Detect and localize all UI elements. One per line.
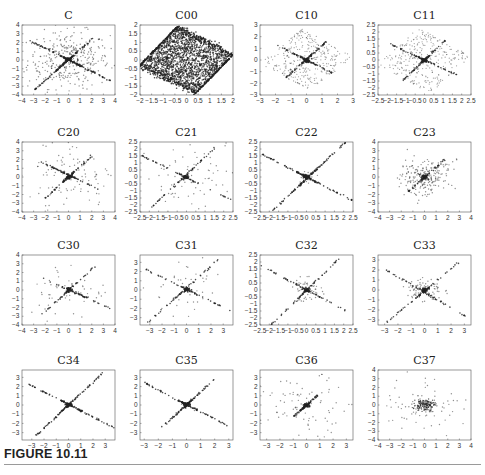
data-points — [262, 142, 353, 211]
data-points — [31, 265, 127, 322]
svg-text:2: 2 — [134, 145, 138, 152]
svg-text:−1: −1 — [408, 327, 416, 334]
svg-text:−3: −3 — [12, 199, 20, 206]
scatter-panel-c35: C35−3−2−10123−3−2−10123 — [130, 354, 233, 449]
svg-text:−1: −1 — [250, 410, 258, 417]
svg-text:3: 3 — [221, 327, 225, 334]
svg-text:2: 2 — [372, 28, 376, 35]
panel-title: C21 — [175, 126, 197, 139]
svg-text:2: 2 — [231, 97, 235, 104]
svg-text:−1: −1 — [12, 65, 20, 72]
svg-text:−2: −2 — [130, 201, 138, 208]
svg-text:2: 2 — [16, 156, 20, 163]
scatter-panel-c11: C11−2.5−2−1.5−1−0.500.511.522.5−2.5−2−1.… — [363, 9, 476, 104]
figure-label: FIGURE 10.11 — [4, 447, 88, 461]
svg-text:1.5: 1.5 — [248, 265, 257, 272]
svg-text:1.5: 1.5 — [217, 97, 226, 104]
svg-text:−4: −4 — [12, 208, 20, 215]
svg-text:−2: −2 — [272, 97, 280, 104]
svg-text:4: 4 — [113, 97, 117, 104]
svg-text:1.5: 1.5 — [210, 214, 219, 221]
svg-text:1: 1 — [318, 442, 322, 449]
svg-text:1.5: 1.5 — [330, 214, 339, 221]
svg-text:−1: −1 — [169, 442, 177, 449]
svg-text:3: 3 — [102, 214, 106, 221]
svg-text:−2.5: −2.5 — [245, 208, 258, 215]
svg-text:1: 1 — [372, 276, 376, 283]
svg-text:3: 3 — [345, 442, 349, 449]
svg-text:−2: −2 — [130, 420, 138, 427]
scatter-panel-c22: C22−2.5−2−1.5−1−0.500.511.522.5−2.5−2−1.… — [245, 126, 358, 221]
svg-text:−1: −1 — [287, 97, 295, 104]
panel-title: C34 — [57, 354, 79, 367]
svg-text:3: 3 — [134, 374, 138, 381]
svg-text:−1: −1 — [53, 214, 61, 221]
svg-text:−3: −3 — [30, 327, 38, 334]
svg-text:1: 1 — [134, 277, 138, 284]
svg-text:−2: −2 — [250, 420, 258, 427]
svg-text:3: 3 — [227, 442, 231, 449]
svg-text:2: 2 — [460, 97, 464, 104]
svg-text:−4: −4 — [368, 208, 376, 215]
svg-text:−1: −1 — [12, 295, 20, 302]
svg-text:1: 1 — [208, 97, 212, 104]
svg-text:−1: −1 — [250, 68, 258, 75]
svg-text:2.5: 2.5 — [366, 21, 375, 28]
svg-text:1: 1 — [372, 42, 376, 49]
svg-text:−1: −1 — [130, 410, 138, 417]
svg-text:−2: −2 — [42, 327, 50, 334]
svg-text:1: 1 — [254, 272, 258, 279]
svg-text:−3: −3 — [141, 442, 149, 449]
svg-text:−4: −4 — [12, 91, 20, 98]
svg-text:−3: −3 — [368, 316, 376, 323]
svg-text:−2: −2 — [368, 84, 376, 91]
svg-text:−2: −2 — [250, 201, 258, 208]
svg-text:−0.5: −0.5 — [171, 214, 184, 221]
svg-text:0: 0 — [423, 214, 427, 221]
svg-text:3: 3 — [16, 30, 20, 37]
svg-text:4: 4 — [113, 327, 117, 334]
svg-text:0: 0 — [134, 286, 138, 293]
svg-text:2: 2 — [372, 266, 376, 273]
panel-title: C31 — [175, 239, 197, 252]
svg-text:−3: −3 — [263, 442, 271, 449]
svg-text:1: 1 — [372, 164, 376, 171]
data-points — [397, 149, 458, 204]
svg-text:2: 2 — [372, 156, 376, 163]
svg-text:2.5: 2.5 — [466, 97, 475, 104]
svg-text:0.5: 0.5 — [311, 327, 320, 334]
svg-text:1: 1 — [197, 327, 201, 334]
svg-text:−3: −3 — [250, 91, 258, 98]
figure-10-11-scatter-grid: C−4−3−2−101234−4−3−2−101234C00−2−1.5−1−0… — [0, 0, 485, 475]
svg-text:1: 1 — [78, 97, 82, 104]
data-points — [138, 26, 235, 96]
svg-text:−0.5: −0.5 — [409, 97, 422, 104]
y-axis-ticks: −2.5−2−1.5−1−0.500.511.522.5 — [245, 251, 262, 328]
svg-text:2: 2 — [222, 214, 226, 221]
svg-text:0.5: 0.5 — [128, 166, 137, 173]
data-points — [28, 372, 114, 436]
svg-text:2.5: 2.5 — [348, 214, 357, 221]
svg-text:3: 3 — [16, 147, 20, 154]
scatter-panel-c31: C31−3−2−10123−3−2−10123 — [130, 236, 246, 334]
panel-title: C36 — [295, 354, 317, 367]
svg-text:1.5: 1.5 — [128, 152, 137, 159]
scatter-panel-c33: C33−3−2−10123−3−2−10123 — [368, 239, 471, 334]
svg-text:2.5: 2.5 — [348, 327, 357, 334]
svg-text:−0.5: −0.5 — [363, 63, 376, 70]
svg-text:−1: −1 — [160, 97, 168, 104]
svg-text:2: 2 — [91, 442, 95, 449]
svg-text:2: 2 — [90, 97, 94, 104]
svg-text:2: 2 — [342, 214, 346, 221]
svg-text:−1: −1 — [368, 182, 376, 189]
svg-text:0: 0 — [423, 442, 427, 449]
svg-text:2: 2 — [342, 327, 346, 334]
svg-text:4: 4 — [469, 214, 473, 221]
svg-text:2: 2 — [213, 442, 217, 449]
svg-text:0.5: 0.5 — [191, 214, 200, 221]
svg-text:1: 1 — [254, 392, 258, 399]
svg-text:−2: −2 — [398, 442, 406, 449]
svg-text:−1: −1 — [368, 70, 376, 77]
data-points — [386, 371, 466, 447]
scatter-panel-c34: C34−3−2−10123−3−2−10123 — [12, 354, 115, 449]
